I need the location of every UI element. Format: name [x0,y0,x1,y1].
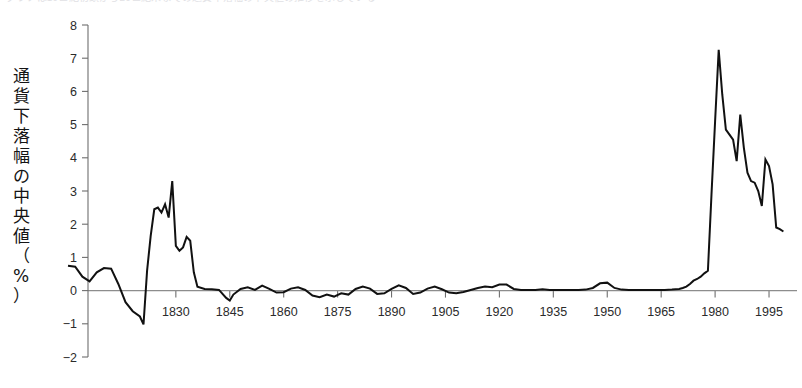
x-tick-label: 1845 [216,305,244,319]
data-series-line [68,50,783,325]
y-tick-label: 2 [70,218,77,232]
x-tick-label: 1950 [593,305,621,319]
chart-figure: グラフは19世紀初頭から20世紀末までの通貨下落幅の中央値の推移を示している 通… [0,0,802,388]
x-tick-label: 1830 [162,305,190,319]
x-axis-ticks: 1830184518601875189019051920193519501965… [162,291,783,319]
x-tick-label: 1920 [485,305,513,319]
y-tick-label: 0 [70,284,77,298]
chart-plot-area: −2−1012345678 18301845186018751890190519… [0,0,802,388]
y-tick-label: 3 [70,185,77,199]
y-tick-label: 1 [70,251,77,265]
x-tick-label: 1980 [701,305,729,319]
y-tick-label: −1 [63,317,77,331]
y-tick-label: 5 [70,118,77,132]
y-tick-label: 4 [70,151,77,165]
y-axis-ticks: −2−1012345678 [63,19,88,365]
x-tick-label: 1890 [378,305,406,319]
x-tick-label: 1860 [270,305,298,319]
x-tick-label: 1905 [432,305,460,319]
x-tick-label: 1965 [647,305,675,319]
x-tick-label: 1995 [755,305,783,319]
x-tick-label: 1935 [539,305,567,319]
x-tick-label: 1875 [324,305,352,319]
y-tick-label: 6 [70,85,77,99]
y-tick-label: 8 [70,19,77,33]
y-tick-label: −2 [63,351,77,365]
y-tick-label: 7 [70,52,77,66]
